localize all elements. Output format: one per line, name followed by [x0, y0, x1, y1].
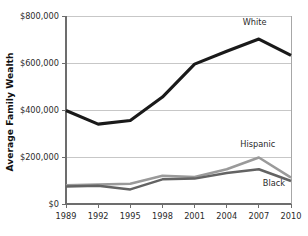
x-tick-label: 2001	[184, 211, 205, 221]
x-tick-label: 2010	[281, 211, 302, 221]
x-tick-label: 2004	[216, 211, 237, 221]
x-tick-label: 1998	[152, 211, 173, 221]
x-tick-label: 1989	[56, 211, 77, 221]
series-label-white: White	[243, 17, 267, 27]
y-axis-title: Average Family Wealth	[4, 52, 15, 171]
y-tick-label: $800,000	[20, 11, 59, 21]
x-tick-label: 1995	[120, 211, 141, 221]
y-tick-label: $600,000	[20, 58, 59, 68]
series-label-black: Black	[263, 178, 285, 188]
x-tick-label: 1992	[88, 211, 109, 221]
x-tick-label: 2007	[248, 211, 269, 221]
series-label-hispanic: Hispanic	[240, 139, 275, 149]
y-tick-label: $400,000	[20, 105, 59, 115]
chart-background	[0, 0, 308, 236]
y-tick-label: $0	[49, 199, 59, 209]
chart-container: $800,000$600,000$400,000$200,000$0 19891…	[0, 0, 308, 236]
y-tick-label: $200,000	[20, 152, 59, 162]
average-family-wealth-line-chart: $800,000$600,000$400,000$200,000$0 19891…	[0, 0, 308, 236]
